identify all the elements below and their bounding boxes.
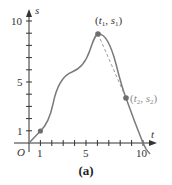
point-1-1	[38, 128, 43, 133]
secant-line	[98, 34, 126, 98]
axes	[14, 9, 157, 152]
tick-label-t-1: 1	[37, 147, 43, 159]
point-label-t1-s1: (t1, s1)	[95, 14, 123, 28]
tick-label-t-5: 5	[83, 147, 89, 159]
point-label-t2-s2: (t2, s2)	[130, 92, 158, 106]
chart-svg: 1 5 10 1 5 10 s t O (t1, s1) (t2, s2)	[0, 0, 172, 185]
tick-label-s-10: 10	[11, 15, 23, 27]
position-time-graph: 1 5 10 1 5 10 s t O (t1, s1) (t2, s2) (a…	[0, 0, 172, 185]
figure-caption: (a)	[0, 163, 172, 179]
origin-label: O	[17, 146, 25, 158]
point-t2-s2	[123, 95, 129, 101]
tick-label-s-1: 1	[17, 125, 23, 137]
axis-label-s: s	[35, 4, 39, 16]
axis-label-t: t	[151, 128, 155, 140]
tick-label-s-5: 5	[17, 76, 23, 88]
s-axis-arrow-icon	[26, 9, 32, 17]
point-t1-s1	[95, 31, 101, 37]
t-axis-arrow-icon	[149, 140, 157, 146]
